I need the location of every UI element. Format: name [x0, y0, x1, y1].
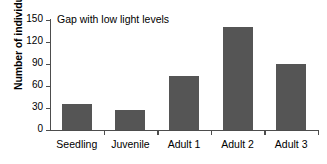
x-tick-mark [318, 130, 319, 135]
y-tick-label: 0 [37, 123, 43, 134]
x-category-label: Seedling [50, 138, 104, 150]
x-tick-mark [211, 130, 212, 135]
y-tick-label: 30 [32, 101, 43, 112]
bar [62, 104, 92, 130]
y-axis-title: Number of individuals [12, 0, 24, 96]
x-tick-mark [104, 130, 105, 135]
y-tick-label: 120 [26, 35, 43, 46]
x-category-label: Adult 2 [211, 138, 265, 150]
plot-area [50, 20, 318, 130]
x-axis-line [50, 130, 318, 131]
bar-chart: Number of individuals 0306090120150 Seed… [0, 0, 327, 164]
bar [169, 76, 199, 130]
bar [276, 64, 306, 130]
y-tick-label: 60 [32, 79, 43, 90]
x-tick-mark [264, 130, 265, 135]
x-category-label: Juvenile [104, 138, 158, 150]
y-tick-mark [46, 130, 50, 131]
y-tick-label: 150 [26, 13, 43, 24]
chart-title: Gap with low light levels [57, 13, 169, 25]
y-tick-label: 90 [32, 57, 43, 68]
bar [223, 27, 253, 130]
x-category-label: Adult 1 [157, 138, 211, 150]
x-category-label: Adult 3 [264, 138, 318, 150]
x-tick-mark [157, 130, 158, 135]
bar [115, 110, 145, 130]
